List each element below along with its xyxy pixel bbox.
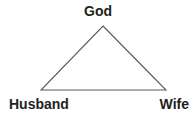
node-label-husband: Husband: [9, 97, 69, 112]
node-label-wife: Wife: [160, 97, 189, 112]
diagram-canvas: God Husband Wife: [0, 0, 196, 117]
triangle-outline: [41, 26, 166, 90]
node-label-god: God: [0, 4, 196, 19]
